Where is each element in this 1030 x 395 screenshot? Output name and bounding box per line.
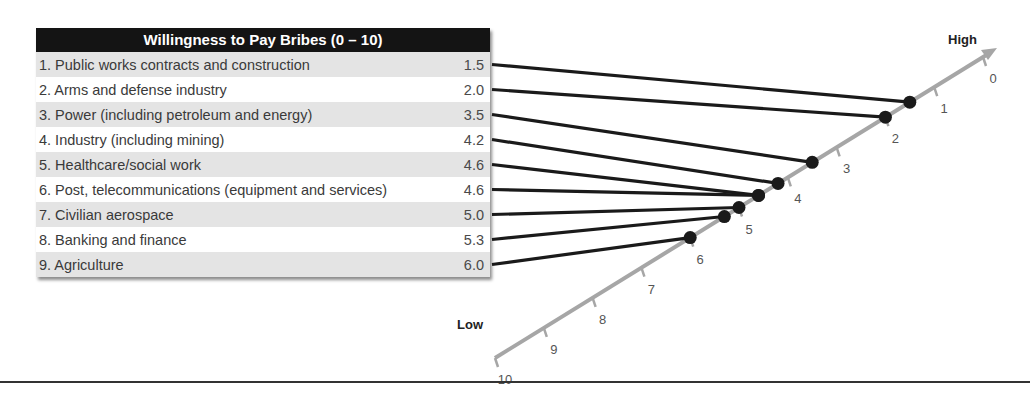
tick-label: 5 [745, 222, 752, 237]
connector-line [492, 65, 910, 103]
data-point [879, 111, 892, 124]
tick-label: 9 [550, 342, 557, 357]
bottom-rule [0, 381, 1030, 383]
data-point [752, 189, 765, 202]
low-label: Low [457, 317, 484, 332]
tick-label: 2 [892, 131, 899, 146]
data-point [806, 156, 819, 169]
data-point [903, 96, 916, 109]
data-point [733, 201, 746, 214]
connector-line [492, 115, 812, 163]
diagonal-axis-chart: 012345678910HighLow [0, 0, 1030, 395]
tick-label: 10 [498, 372, 512, 387]
tick-label: 0 [989, 71, 996, 86]
data-point [718, 210, 731, 223]
connector-line [492, 140, 778, 184]
connector-line [492, 208, 739, 215]
tick-label: 4 [794, 191, 801, 206]
tick-label: 3 [843, 161, 850, 176]
data-point [772, 177, 785, 190]
connector-line [492, 238, 690, 265]
tick-label: 1 [941, 101, 948, 116]
data-point [684, 231, 697, 244]
axis: 012345678910 [495, 48, 997, 387]
tick-label: 8 [599, 312, 606, 327]
tick-label: 7 [648, 282, 655, 297]
high-label: High [948, 32, 977, 47]
tick-label: 6 [697, 252, 704, 267]
